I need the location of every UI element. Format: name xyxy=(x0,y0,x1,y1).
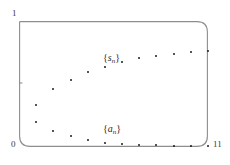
upper-series-annotation: {sn} xyxy=(103,53,120,63)
data-point xyxy=(104,142,106,144)
data-point xyxy=(35,121,37,123)
data-point xyxy=(87,139,89,141)
brace-close: } xyxy=(116,123,121,134)
sequence-scatter-figure: 1 0 11 {sn} {an} xyxy=(0,0,230,165)
lower-series-annotation: {an} xyxy=(103,124,121,134)
data-point xyxy=(190,145,192,147)
data-point xyxy=(87,71,89,73)
data-point xyxy=(155,144,157,146)
brace-close: } xyxy=(115,52,120,63)
y-axis-max-label: 1 xyxy=(12,9,17,18)
data-point xyxy=(207,50,209,52)
data-point xyxy=(207,145,209,147)
data-point xyxy=(173,53,175,55)
data-point xyxy=(155,55,157,57)
series-index: n xyxy=(113,128,117,136)
data-point xyxy=(173,145,175,147)
series-index: n xyxy=(112,57,116,65)
data-point xyxy=(70,79,72,81)
data-point xyxy=(121,61,123,63)
data-point xyxy=(121,143,123,145)
data-point xyxy=(138,144,140,146)
origin-label: 0 xyxy=(11,140,16,149)
data-point xyxy=(52,88,54,90)
data-point xyxy=(70,135,72,137)
data-point xyxy=(35,104,37,106)
data-point xyxy=(138,57,140,59)
data-point xyxy=(104,66,106,68)
x-axis-max-label: 11 xyxy=(213,140,222,149)
data-point xyxy=(190,51,192,53)
data-point xyxy=(52,130,54,132)
